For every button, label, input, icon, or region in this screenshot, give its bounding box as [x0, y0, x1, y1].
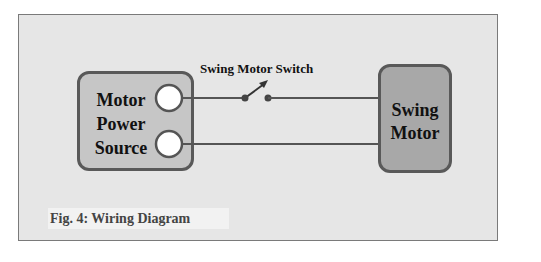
switch-contact-left [242, 95, 249, 102]
swing-motor-label-line: Motor [378, 122, 452, 145]
switch-label: Swing Motor Switch [200, 62, 350, 75]
terminal-2-icon [156, 131, 182, 157]
power-source-label-line: Motor [86, 88, 156, 112]
swing-motor-label: Swing Motor [378, 99, 452, 145]
swing-motor-label-line: Swing [378, 99, 452, 122]
power-source-label-line: Power [86, 112, 156, 136]
figure-caption: Fig. 4: Wiring Diagram [48, 208, 229, 229]
power-source-label: Motor Power Source [86, 88, 156, 160]
terminal-1-icon [156, 85, 182, 111]
power-source-label-line: Source [86, 136, 156, 160]
switch-blade [245, 84, 264, 98]
